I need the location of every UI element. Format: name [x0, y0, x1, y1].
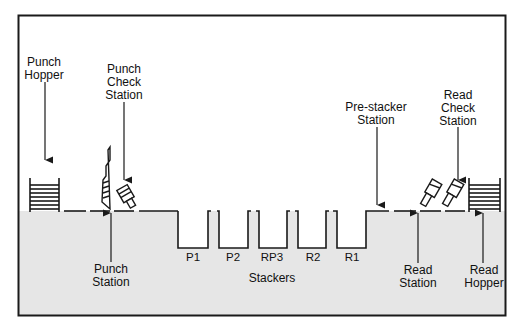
label-line: Station	[399, 277, 436, 290]
label-line: Station	[92, 276, 129, 289]
label-read-station: Read Station	[399, 264, 436, 290]
read-hopper-icon	[469, 178, 500, 212]
punch-hopper-icon	[30, 178, 59, 212]
label-line: Hopper	[24, 69, 63, 82]
label-punch-station: Punch Station	[92, 263, 129, 289]
label-stackers: Stackers	[249, 272, 296, 285]
label-read-hopper: Read Hopper	[464, 264, 503, 290]
stacker-label-p2: P2	[226, 251, 240, 263]
label-pre-stacker-station: Pre-stacker Station	[345, 101, 406, 127]
label-read-check-station: Read Check Station	[439, 89, 476, 128]
label-line: Hopper	[464, 277, 503, 290]
read-brush-icon	[419, 179, 442, 208]
punch-mechanism-icon	[102, 147, 110, 209]
label-punch-hopper: Punch Hopper	[24, 56, 63, 82]
label-line: Station	[439, 115, 476, 128]
label-line: Station	[105, 89, 142, 102]
stacker-label-p1: P1	[186, 251, 200, 263]
punch-check-brush-icon	[117, 185, 138, 210]
stacker-label-r1: R1	[345, 251, 360, 263]
stacker-label-r2: R2	[306, 251, 321, 263]
read-check-brush-icon	[441, 179, 464, 208]
label-line: Station	[345, 114, 406, 127]
label-punch-check-station: Punch Check Station	[105, 63, 142, 102]
stacker-label-rp3: RP3	[261, 251, 283, 263]
